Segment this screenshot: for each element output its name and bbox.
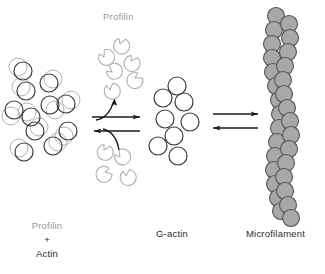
profilin-actin-label-profilin: Profilin	[14, 219, 80, 233]
actin-polymerization-diagram: Profilin G-actin Microfilament Profilin …	[0, 0, 325, 274]
profilin-actin-label-group: Profilin + Actin	[14, 219, 80, 261]
profilin-actin-label-plus: +	[14, 233, 80, 247]
microfilament-label: Microfilament	[246, 228, 305, 239]
left-reversible-arrow-pair	[92, 99, 140, 151]
profilin-actin-label-actin: Actin	[14, 247, 80, 261]
right-reversible-arrow-pair	[213, 111, 258, 130]
profilin-top-label: Profilin	[103, 11, 134, 22]
g-actin-label: G-actin	[156, 228, 188, 239]
profilin-free-bottom-group	[94, 142, 138, 186]
profilin-actin-cluster	[2, 58, 80, 161]
g-actin-cluster	[149, 77, 199, 165]
microfilament-polymer	[264, 8, 300, 227]
profilin-free-top-group	[96, 37, 146, 101]
